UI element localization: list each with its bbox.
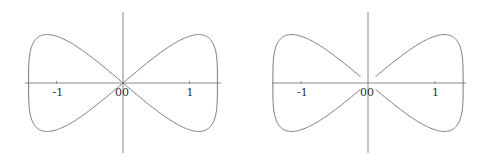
left-plot: -1 1 0 0 — [25, 12, 221, 153]
tick-label-neg: -1 — [53, 86, 64, 99]
origin-label-b: 0 — [367, 86, 374, 99]
origin-label-a: 0 — [115, 86, 122, 99]
origin-label-b: 0 — [122, 86, 129, 99]
right-plot: -1 1 0 0 — [272, 12, 466, 153]
origin-label-a: 0 — [360, 86, 367, 99]
chart-canvas: -1 1 0 0 -1 1 0 0 — [0, 0, 484, 165]
tick-label-neg: -1 — [297, 86, 308, 99]
tick-label-pos: 1 — [432, 86, 439, 99]
tick-label-pos: 1 — [187, 86, 194, 99]
